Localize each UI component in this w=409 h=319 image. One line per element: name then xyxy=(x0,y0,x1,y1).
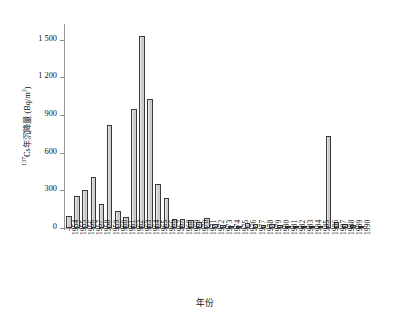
y-axis-tick xyxy=(60,228,65,229)
x-axis-tick xyxy=(296,228,297,231)
y-axis-tick xyxy=(60,190,65,191)
x-axis-tick xyxy=(345,228,346,231)
x-axis-tick xyxy=(207,228,208,231)
x-axis-tick xyxy=(280,228,281,231)
x-axis-tick xyxy=(215,228,216,231)
x-axis-tick xyxy=(264,228,265,231)
x-axis-tick-labels: 1954195519561957195819591960196119621963… xyxy=(65,231,365,291)
x-axis-tick xyxy=(223,228,224,231)
x-axis-tick xyxy=(110,228,111,231)
x-axis-tick-label: 1990 xyxy=(364,220,372,235)
y-axis-tick-label: 0 xyxy=(5,223,57,231)
bar xyxy=(139,36,145,228)
x-axis-tick-label: 1958 xyxy=(104,220,112,235)
x-axis-tick xyxy=(361,228,362,231)
y-axis-tick-label: 300 xyxy=(5,185,57,193)
x-axis-tick xyxy=(77,228,78,231)
bar xyxy=(131,109,137,228)
y-axis-tick-labels: 03006009001 2001 500 xyxy=(0,0,57,319)
x-axis-tick xyxy=(256,228,257,231)
x-axis-tick-label: 1986 xyxy=(332,220,340,235)
x-axis-tick-label: 1977 xyxy=(259,220,267,235)
x-axis-tick xyxy=(329,228,330,231)
x-axis-tick xyxy=(353,228,354,231)
x-axis-tick xyxy=(126,228,127,231)
x-axis-tick xyxy=(288,228,289,231)
x-axis-tick xyxy=(118,228,119,231)
y-axis-tick xyxy=(60,40,65,41)
y-axis-tick xyxy=(60,153,65,154)
y-axis-tick-label: 600 xyxy=(5,148,57,156)
bar xyxy=(107,125,113,228)
y-axis-tick-label: 1 200 xyxy=(5,72,57,80)
bar xyxy=(147,99,153,228)
x-axis-tick xyxy=(183,228,184,231)
x-axis-tick xyxy=(191,228,192,231)
bar-series xyxy=(65,27,365,228)
y-axis-tick-label: 900 xyxy=(5,110,57,118)
x-axis-tick-label: 1967 xyxy=(177,220,185,235)
x-axis-tick-label: 1985 xyxy=(323,220,331,235)
x-axis-tick xyxy=(69,228,70,231)
y-axis-tick xyxy=(60,115,65,116)
x-axis-tick xyxy=(150,228,151,231)
y-axis-tick xyxy=(60,77,65,78)
chart-figure: 137Cs年沉降量 (Bq/m2) 03006009001 2001 500 1… xyxy=(0,0,409,319)
x-axis-title: 年份 xyxy=(0,296,409,308)
y-axis-tick-label: 1 500 xyxy=(5,35,57,43)
x-axis-tick xyxy=(272,228,273,231)
x-axis-tick xyxy=(337,228,338,231)
x-axis-tick xyxy=(142,228,143,231)
x-axis-tick-label: 1976 xyxy=(250,220,258,235)
x-axis-tick xyxy=(134,228,135,231)
x-axis-tick xyxy=(199,228,200,231)
bar xyxy=(326,136,332,228)
